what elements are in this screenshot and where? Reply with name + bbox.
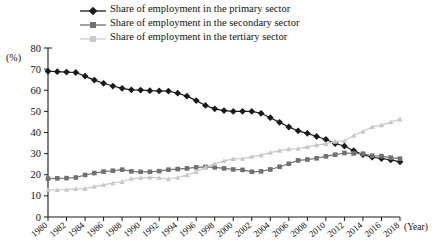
svg-text:2018: 2018: [381, 220, 402, 240]
svg-text:2008: 2008: [288, 220, 309, 240]
chart-area: (%) (Year) 01020304050607080198019821984…: [0, 40, 442, 252]
svg-text:10: 10: [31, 190, 42, 201]
svg-text:1986: 1986: [85, 220, 106, 240]
svg-text:1992: 1992: [140, 220, 160, 239]
svg-text:2016: 2016: [363, 220, 384, 240]
legend-item-primary: Share of employment in the primary secto…: [80, 2, 380, 15]
chart-page: Share of employment in the primary secto…: [0, 0, 442, 252]
svg-text:2000: 2000: [214, 220, 235, 240]
series-square: [46, 151, 403, 181]
line-plot: 0102030405060708019801982198419861988199…: [0, 40, 442, 252]
svg-text:1990: 1990: [122, 220, 143, 240]
svg-text:2002: 2002: [233, 220, 253, 239]
svg-text:2004: 2004: [251, 220, 272, 240]
legend-item-secondary: Share of employment in the secondary sec…: [80, 16, 380, 29]
square-marker-icon: [80, 17, 106, 29]
svg-text:50: 50: [31, 106, 42, 117]
svg-text:2014: 2014: [344, 220, 365, 240]
svg-text:2010: 2010: [307, 220, 328, 240]
legend-label-primary: Share of employment in the primary secto…: [110, 3, 290, 15]
svg-text:60: 60: [31, 85, 42, 96]
svg-text:1996: 1996: [177, 220, 198, 240]
series-diamond: [45, 68, 404, 165]
svg-text:1982: 1982: [48, 220, 68, 239]
series-triangle: [45, 117, 402, 193]
chart-legend: Share of employment in the primary secto…: [80, 2, 380, 44]
svg-text:1994: 1994: [159, 220, 180, 240]
legend-label-secondary: Share of employment in the secondary sec…: [110, 17, 300, 29]
svg-text:40: 40: [31, 127, 42, 138]
svg-text:2012: 2012: [325, 220, 345, 239]
svg-text:2006: 2006: [270, 220, 291, 240]
svg-text:1984: 1984: [66, 220, 87, 240]
svg-text:30: 30: [31, 148, 42, 159]
svg-text:1980: 1980: [29, 220, 50, 240]
svg-text:70: 70: [31, 64, 42, 75]
svg-text:80: 80: [31, 43, 42, 54]
diamond-marker-icon: [80, 3, 106, 15]
svg-text:1998: 1998: [196, 220, 217, 240]
svg-text:1988: 1988: [103, 220, 124, 240]
svg-text:20: 20: [31, 169, 42, 180]
